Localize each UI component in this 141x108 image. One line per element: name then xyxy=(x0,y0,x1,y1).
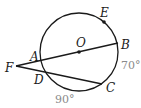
label-o: O xyxy=(76,36,86,50)
arc-bc-measure: 70° xyxy=(121,59,141,72)
label-b: B xyxy=(120,38,130,52)
label-f: F xyxy=(4,61,14,75)
arc-dc-measure: 90° xyxy=(55,93,75,106)
geometry-diagram: E O B A F D C 70° 90° xyxy=(0,0,141,108)
label-a: A xyxy=(29,50,39,64)
label-d: D xyxy=(33,73,44,87)
label-e: E xyxy=(99,6,109,20)
secant-fc xyxy=(16,66,102,84)
label-c: C xyxy=(106,81,115,95)
center-point-o xyxy=(77,50,81,54)
point-e xyxy=(102,20,106,24)
